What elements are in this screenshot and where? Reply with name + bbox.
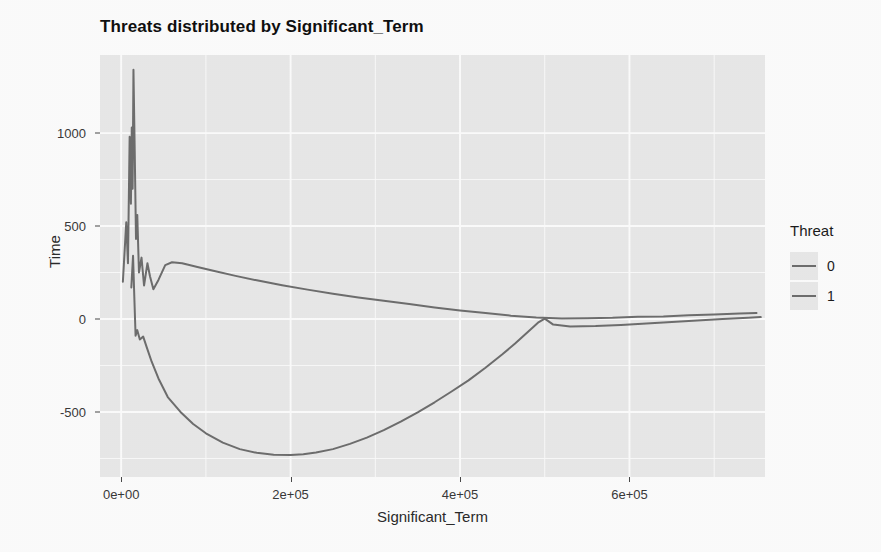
chart-title: Threats distributed by Significant_Term (100, 17, 424, 37)
y-tick-label: -500 (30, 404, 86, 419)
x-tick-mark (291, 477, 292, 482)
legend: Threat 01 (790, 222, 835, 311)
data-series-layer (100, 55, 765, 477)
series-line-1 (131, 256, 760, 455)
x-tick-mark (121, 477, 122, 482)
legend-key-line-icon (792, 295, 816, 297)
y-tick-label: 500 (30, 219, 86, 234)
legend-entry-1[interactable]: 1 (790, 281, 835, 311)
legend-key-line-icon (792, 265, 816, 267)
legend-key-swatch (790, 252, 818, 280)
y-axis-title: Time (46, 192, 63, 312)
legend-entry-label: 0 (827, 258, 835, 274)
legend-entries: 01 (790, 251, 835, 311)
x-axis-title: Significant_Term (100, 508, 765, 525)
legend-title: Threat (790, 222, 835, 239)
chart-container: Threats distributed by Significant_Term … (0, 0, 881, 552)
series-line-0 (123, 70, 757, 319)
plot-panel (100, 55, 765, 477)
x-tick-mark (460, 477, 461, 482)
x-tick-mark (629, 477, 630, 482)
legend-entry-0[interactable]: 0 (790, 251, 835, 281)
x-tick-label: 4e+05 (415, 487, 505, 502)
y-tick-label: 1000 (30, 126, 86, 141)
legend-entry-label: 1 (827, 288, 835, 304)
legend-key-swatch (790, 282, 818, 310)
x-tick-label: 2e+05 (246, 487, 336, 502)
x-tick-label: 6e+05 (584, 487, 674, 502)
x-tick-label: 0e+00 (76, 487, 166, 502)
y-tick-label: 0 (30, 311, 86, 326)
